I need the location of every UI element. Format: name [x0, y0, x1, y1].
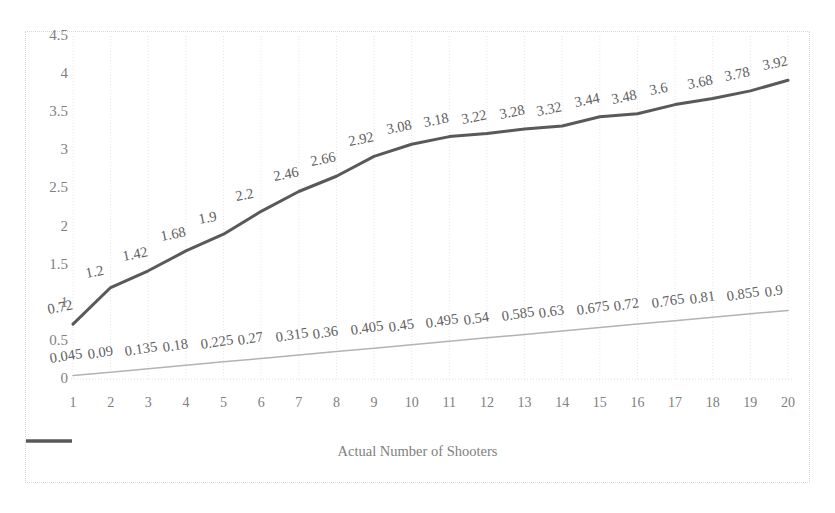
legend-swatch-icon — [26, 436, 72, 446]
data-point-label: 0.9 — [764, 283, 784, 300]
x-axis-tick-label: 8 — [319, 396, 353, 410]
data-point-label: 0.45 — [387, 316, 414, 334]
x-axis-tick-label: 13 — [508, 396, 542, 410]
data-point-label: 3.6 — [648, 79, 669, 97]
legend-label: Actual Number of Shooters — [338, 443, 498, 460]
y-axis-tick-label: 2.5 — [26, 180, 68, 195]
x-axis-tick-label: 19 — [733, 396, 767, 410]
data-point-label: 0.36 — [312, 323, 339, 341]
chart-container: 00.511.522.533.544.5 1234567891011121314… — [25, 31, 810, 483]
y-axis-tick-label: 3.5 — [26, 104, 68, 119]
x-axis-tick-label: 15 — [583, 396, 617, 410]
x-axis-tick-label: 5 — [207, 396, 241, 410]
x-axis-tick-label: 6 — [244, 396, 278, 410]
x-axis-tick-label: 1 — [56, 396, 90, 410]
x-axis-tick-label: 14 — [545, 396, 579, 410]
data-point-label: 1.9 — [197, 209, 218, 227]
x-axis-tick-label: 12 — [470, 396, 504, 410]
x-axis-tick-label: 20 — [771, 396, 805, 410]
x-axis-tick-label: 2 — [94, 396, 128, 410]
y-axis-tick-label: 4 — [26, 66, 68, 81]
x-axis-tick-label: 11 — [432, 396, 466, 410]
x-axis-tick-label: 3 — [131, 396, 165, 410]
data-point-label: 0.54 — [463, 309, 490, 327]
x-axis-tick-label: 7 — [282, 396, 316, 410]
data-point-label: 1.2 — [84, 262, 105, 280]
x-axis-tick-label: 9 — [357, 396, 391, 410]
y-axis-tick-label: 0 — [26, 371, 68, 386]
y-axis-tick-label: 2 — [26, 219, 68, 234]
x-axis-tick-label: 18 — [696, 396, 730, 410]
y-axis-tick-label: 0.5 — [26, 333, 68, 348]
y-axis-tick-label: 1.5 — [26, 257, 68, 272]
x-axis-tick-label: 4 — [169, 396, 203, 410]
chart-legend: Actual Number of Shooters — [26, 436, 809, 466]
plot-area: 00.511.522.533.544.5 1234567891011121314… — [26, 32, 809, 482]
y-axis-tick-label: 4.5 — [26, 28, 68, 43]
x-axis-tick-label: 10 — [395, 396, 429, 410]
x-axis-tick-label: 17 — [658, 396, 692, 410]
y-axis-tick-label: 3 — [26, 142, 68, 157]
x-axis-tick-label: 16 — [620, 396, 654, 410]
